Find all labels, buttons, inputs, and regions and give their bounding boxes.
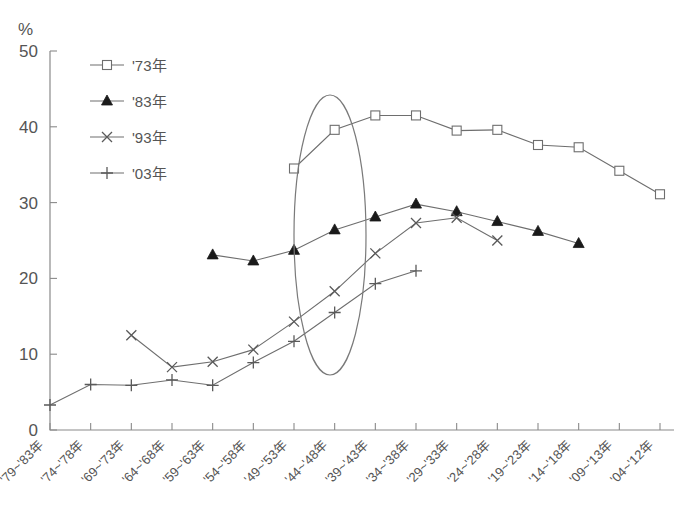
plus-cross-marker	[247, 357, 259, 369]
legend-item-label: '73年	[132, 57, 167, 74]
x-tick-label: '39~'43年	[322, 438, 371, 487]
x-tick-label: '74~'78年	[38, 438, 87, 487]
plus-cross-marker	[329, 307, 341, 319]
series-triangle-solid	[207, 198, 584, 265]
plus-cross-marker	[166, 374, 178, 386]
square-open-marker	[656, 190, 665, 199]
plus-cross-marker	[101, 167, 113, 179]
square-open-marker	[103, 61, 112, 70]
series-group	[44, 111, 665, 411]
x-tick-label: '44~'48年	[282, 438, 331, 487]
x-cross-marker	[248, 345, 258, 355]
legend-item-0[interactable]: '73年	[90, 57, 167, 74]
series-line	[50, 271, 416, 405]
x-tick-label: '64~'68年	[119, 438, 168, 487]
square-open-marker	[290, 164, 299, 173]
square-open-marker	[330, 125, 339, 134]
x-tick-label: '09~'13年	[566, 438, 615, 487]
x-cross-marker	[330, 286, 340, 296]
x-cross-marker	[492, 236, 502, 246]
x-tick-label: '34~'38年	[363, 438, 412, 487]
square-open-marker	[452, 126, 461, 135]
x-cross-marker	[289, 317, 299, 327]
line-chart: % 01020304050 '79~'83年'74~'78年'69~'73年'6…	[0, 0, 679, 508]
plus-cross-marker	[85, 379, 97, 391]
legend-group: '73年'83年'93年'03年	[90, 57, 167, 182]
annotation-group	[294, 95, 366, 375]
x-tick-label: '59~'63年	[160, 438, 209, 487]
square-open-marker	[493, 125, 502, 134]
legend-item-label: '03年	[132, 165, 167, 182]
plus-cross-marker	[44, 399, 56, 411]
y-tick-label: 0	[29, 421, 38, 440]
series-line	[213, 204, 579, 261]
square-open-marker	[615, 166, 624, 175]
y-tick-label: 50	[19, 42, 38, 61]
triangle-solid-marker	[102, 95, 113, 105]
x-tick-label: '69~'73年	[78, 438, 127, 487]
square-open-marker	[371, 111, 380, 120]
square-open-marker	[412, 111, 421, 120]
triangle-solid-marker	[411, 198, 422, 208]
x-tick-label: '19~'23年	[485, 438, 534, 487]
legend-item-1[interactable]: '83年	[90, 93, 167, 110]
series-square-open	[290, 111, 665, 199]
series-plus-cross	[44, 265, 422, 411]
square-open-marker	[574, 143, 583, 152]
x-tick-group	[50, 423, 660, 430]
highlight-ellipse	[294, 95, 366, 375]
series-x-cross	[126, 213, 502, 372]
x-tick-label-group: '79~'83年'74~'78年'69~'73年'64~'68年'59~'63年…	[0, 438, 656, 487]
legend-item-3[interactable]: '03年	[90, 165, 167, 182]
plus-cross-marker	[207, 379, 219, 391]
x-cross-marker	[370, 248, 380, 258]
y-tick-label: 20	[19, 269, 38, 288]
x-tick-label: '14~'18年	[526, 438, 575, 487]
legend-item-label: '83年	[132, 93, 167, 110]
x-tick-label: '54~'58年	[200, 438, 249, 487]
y-tick-label: 40	[19, 118, 38, 137]
legend-item-2[interactable]: '93年	[90, 129, 167, 146]
legend-item-label: '93年	[132, 129, 167, 146]
series-line	[294, 115, 660, 194]
y-tick-group: 01020304050	[19, 42, 57, 440]
triangle-solid-marker	[207, 249, 218, 259]
y-tick-label: 10	[19, 345, 38, 364]
plus-cross-marker	[125, 379, 137, 391]
x-tick-label: '79~'83年	[0, 438, 46, 487]
square-open-marker	[534, 140, 543, 149]
plus-cross-marker	[410, 265, 422, 277]
x-tick-label: '29~'33年	[404, 438, 453, 487]
y-tick-label: 30	[19, 194, 38, 213]
x-cross-marker	[126, 330, 136, 340]
x-tick-label: '04~'12年	[607, 438, 656, 487]
x-tick-label: '49~'53年	[241, 438, 290, 487]
plus-cross-marker	[369, 278, 381, 290]
plus-cross-marker	[288, 335, 300, 347]
plot-area: 01020304050 '79~'83年'74~'78年'69~'73年'64~…	[0, 0, 679, 508]
x-tick-label: '24~'28年	[444, 438, 493, 487]
